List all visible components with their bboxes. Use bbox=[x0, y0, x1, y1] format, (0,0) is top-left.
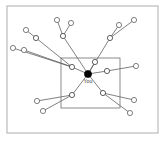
graph-node-h6[interactable] bbox=[60, 33, 65, 38]
graph-node-l11[interactable] bbox=[34, 98, 39, 103]
graph-node-l5[interactable] bbox=[68, 20, 73, 25]
edge-h3-l8 bbox=[107, 66, 136, 71]
graph-node-l12[interactable] bbox=[40, 108, 45, 113]
nodes-group bbox=[10, 17, 138, 115]
graph-node-l7[interactable] bbox=[131, 17, 136, 22]
graph-node-h4[interactable] bbox=[100, 90, 105, 95]
graph-node-l1[interactable] bbox=[23, 27, 28, 32]
ego-node-label: You bbox=[84, 78, 93, 84]
graph-node-l6[interactable] bbox=[116, 22, 121, 27]
graph-node-l3[interactable] bbox=[21, 47, 26, 52]
graph-node-l4[interactable] bbox=[54, 17, 59, 22]
edge-h7-l7 bbox=[110, 20, 134, 38]
outer-frame bbox=[7, 6, 158, 133]
graph-node-h3[interactable] bbox=[104, 68, 109, 73]
graph-node-h1[interactable] bbox=[69, 64, 74, 69]
graph-node-h2[interactable] bbox=[92, 59, 97, 64]
graph-node-h5[interactable] bbox=[69, 92, 74, 97]
edge-h1-h8 bbox=[36, 38, 72, 67]
edge-h1-l3 bbox=[24, 50, 72, 67]
ego-node-group: You bbox=[84, 70, 93, 84]
graph-node-l8[interactable] bbox=[133, 63, 138, 68]
graph-node-l9[interactable] bbox=[131, 97, 136, 102]
graph-node-h8[interactable] bbox=[33, 35, 38, 40]
network-graph-canvas: You bbox=[0, 0, 168, 144]
network-diagram-figure: You bbox=[0, 0, 168, 144]
graph-node-h7[interactable] bbox=[107, 35, 112, 40]
ego-node-you[interactable] bbox=[84, 70, 91, 77]
graph-node-l10[interactable] bbox=[127, 110, 132, 115]
graph-node-l2[interactable] bbox=[10, 45, 15, 50]
